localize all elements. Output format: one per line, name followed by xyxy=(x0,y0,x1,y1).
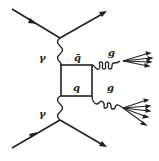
label-antiquark: q̄ xyxy=(74,52,81,63)
gluon-bottom xyxy=(92,96,123,109)
label-gluon-bottom: g xyxy=(107,82,114,93)
jet-bottom xyxy=(123,99,150,125)
outgoing-lepton-bottom xyxy=(60,120,107,147)
incoming-lepton-top xyxy=(12,9,60,38)
photon-top xyxy=(58,38,63,65)
gluon-top xyxy=(92,61,120,69)
label-quark: q xyxy=(73,82,80,93)
label-photon-bottom: γ xyxy=(39,108,46,119)
feynman-diagram: γ q̄ g q g γ xyxy=(0,0,159,161)
arrow-icon xyxy=(99,11,107,17)
outgoing-lepton-top xyxy=(60,11,107,38)
label-gluon-top: g xyxy=(108,47,115,58)
label-photon-top: γ xyxy=(39,52,46,63)
incoming-lepton-bottom xyxy=(12,120,60,148)
photon-bottom xyxy=(58,96,63,120)
jet-top xyxy=(123,52,152,67)
